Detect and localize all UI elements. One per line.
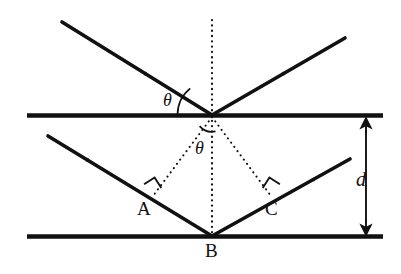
reflected-ray-lower-arrow	[278, 178, 316, 199]
point-b-label: B	[205, 241, 218, 260]
theta-lower-label: θ	[195, 139, 204, 157]
incident-ray-upper-arrow	[110, 52, 148, 76]
point-a-label: A	[137, 199, 151, 218]
theta-upper-label: θ	[163, 91, 172, 109]
reflected-ray-upper-arrow	[248, 72, 286, 94]
physics-diagram: θ θ A B C d	[0, 0, 401, 274]
spacing-d-label: d	[356, 169, 366, 189]
diagram-canvas	[0, 0, 401, 274]
right-angle-marker-c	[263, 178, 280, 189]
right-angle-marker-a	[144, 178, 161, 189]
incident-ray-lower-arrow	[52, 138, 90, 161]
perpendicular-to-c-line	[212, 117, 271, 196]
point-c-label: C	[265, 199, 278, 218]
